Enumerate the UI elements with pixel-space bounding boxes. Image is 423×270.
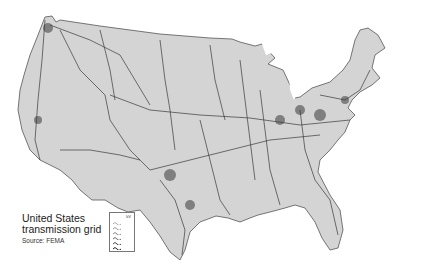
caption-title-line2: transmission grid [22,224,101,235]
caption-source: Source: FEMA [22,237,101,244]
legend-entry [113,246,131,250]
legend-entry [113,241,131,245]
legend-entry [113,221,131,225]
legend-header: kV [126,214,131,219]
legend-entry [113,226,131,230]
legend-entry [113,236,131,240]
legend-entry [113,231,131,235]
map-caption: United States transmission grid Source: … [22,213,101,244]
voltage-legend: kV [109,212,135,252]
